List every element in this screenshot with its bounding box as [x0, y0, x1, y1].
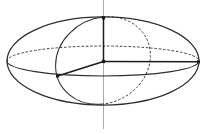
meridian-back-dashed-arc: [103, 17, 150, 104]
marker-right-endpoint: [197, 60, 200, 63]
marker-center: [102, 60, 105, 63]
marker-north-pole: [102, 16, 105, 19]
ellipsoid-figure: [0, 0, 206, 134]
semi-axis-front: [58, 62, 104, 77]
meridian-front-solid-arc: [56, 17, 103, 104]
marker-front-endpoint: [56, 75, 59, 78]
ellipsoid-wireframe-svg: [0, 0, 206, 134]
